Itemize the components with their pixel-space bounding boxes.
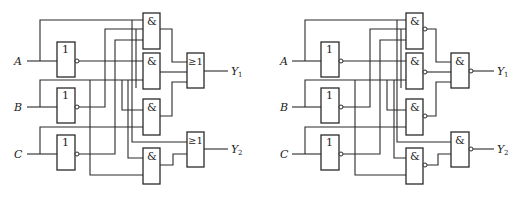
right-not-bubble-a — [339, 59, 343, 63]
right-output-bubble-1 — [469, 69, 473, 73]
left-not-bubble-a — [75, 59, 79, 63]
right-circuit: 1 1 1 & & & & & & A B C Y 1 Y 2 — [279, 13, 508, 184]
right-not-c-symbol: 1 — [326, 136, 333, 149]
left-or-1-symbol: ≥1 — [188, 56, 203, 67]
right-not-bubble-c — [339, 152, 343, 156]
left-input-c-label: C — [14, 148, 23, 161]
left-and-2-symbol: & — [147, 55, 157, 68]
left-not-bubble-b — [75, 105, 79, 109]
left-or-2-symbol: ≥1 — [188, 135, 203, 146]
right-output-1-symbol: & — [455, 55, 465, 68]
left-not-a-symbol: 1 — [62, 43, 69, 56]
left-not-c-symbol: 1 — [62, 136, 69, 149]
right-output-y1-sub: 1 — [504, 71, 508, 79]
left-not-bubble-c — [75, 152, 79, 156]
left-output-y1-sub: 1 — [238, 71, 242, 79]
left-and-3-symbol: & — [147, 101, 157, 114]
right-nand-3-symbol: & — [410, 101, 420, 114]
left-and-1-symbol: & — [147, 15, 157, 28]
right-nand-2-symbol: & — [410, 55, 420, 68]
left-circuit: 1 1 1 & & & & ≥1 ≥1 A B C Y 1 Y 2 — [13, 13, 242, 184]
logic-circuit-diagrams: 1 1 1 & & & & ≥1 ≥1 A B C Y 1 Y 2 — [0, 0, 519, 199]
right-nand-4-symbol: & — [410, 150, 420, 163]
right-input-a-label: A — [279, 55, 288, 68]
left-input-a-label: A — [13, 55, 22, 68]
left-output-y2-sub: 2 — [238, 149, 242, 157]
left-and-4-symbol: & — [147, 150, 157, 163]
right-nand-bubble-4 — [423, 163, 427, 167]
right-nand-1-symbol: & — [410, 15, 420, 28]
right-output-bubble-2 — [469, 147, 473, 151]
right-nand-bubble-3 — [423, 114, 427, 118]
right-not-bubble-b — [339, 105, 343, 109]
right-nand-bubble-2 — [423, 70, 427, 74]
right-not-a-symbol: 1 — [326, 43, 333, 56]
right-nand-bubble-1 — [423, 27, 427, 31]
right-not-b-symbol: 1 — [326, 89, 333, 102]
left-input-b-label: B — [13, 101, 22, 114]
left-not-b-symbol: 1 — [62, 89, 69, 102]
right-input-b-label: B — [279, 101, 288, 114]
right-output-y2-sub: 2 — [504, 149, 508, 157]
right-output-2-symbol: & — [455, 134, 465, 147]
right-input-c-label: C — [280, 148, 289, 161]
